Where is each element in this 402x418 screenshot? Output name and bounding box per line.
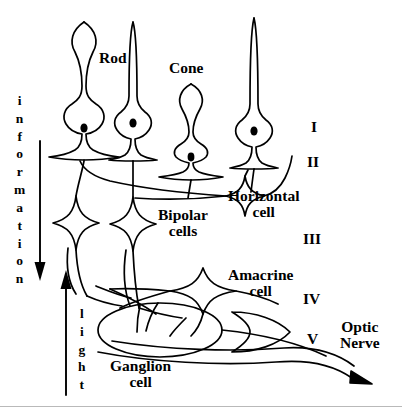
axis-letter: n [16, 110, 24, 128]
layer-label-ii: II [307, 154, 319, 170]
axis-letter: m [14, 181, 25, 199]
axis-letter: g [78, 341, 85, 359]
bipolar-cell-left [53, 196, 99, 296]
light-arrow [61, 270, 72, 395]
axis-letter: t [17, 217, 22, 235]
axis-letter: r [17, 163, 23, 181]
label-optic-nerve-line1: Optic [340, 319, 380, 335]
axis-letter: f [17, 128, 22, 146]
ganglion-dendrites [137, 303, 186, 336]
label-amacrine-cell-line1: Amacrine [228, 267, 293, 283]
axis-letter: o [16, 145, 23, 163]
information-arrow [35, 141, 46, 281]
layer-label-iv: IV [303, 291, 320, 307]
axis-letter: i [18, 235, 22, 253]
layer-label-i: I [311, 119, 317, 135]
axis-letter: h [78, 358, 86, 376]
photoreceptor-cone-labeled [159, 84, 223, 180]
photoreceptor-rod-right [230, 18, 278, 169]
axis-letter: i [18, 92, 22, 110]
label-cone: Cone [169, 60, 203, 76]
photoreceptor-cone-left [49, 22, 119, 160]
axis-letter: l [80, 305, 84, 323]
layer-label-v: V [307, 331, 318, 347]
axis-letter: a [16, 199, 23, 217]
axis-letter: n [16, 270, 24, 288]
bottom-divider [0, 406, 402, 407]
axis-letter: o [16, 252, 23, 270]
label-optic-nerve-line2: Nerve [340, 335, 380, 351]
label-bipolar-cells-line1: Bipolar [158, 207, 208, 223]
label-horizontal-cell-line2: cell [228, 204, 299, 220]
label-amacrine-cell: Amacrine cell [228, 267, 293, 300]
retina-diagram: Rod Cone Horizontal cell Bipolar cells A… [0, 0, 402, 418]
layer-label-iii: III [303, 231, 321, 247]
label-optic-nerve: Optic Nerve [340, 319, 380, 352]
label-rod: Rod [99, 50, 127, 66]
label-amacrine-cell-line2: cell [228, 283, 293, 299]
optic-nerve-arrowhead [350, 371, 372, 384]
axis-label-information: information [14, 92, 25, 288]
label-horizontal-cell: Horizontal cell [228, 188, 299, 221]
label-ganglion-cell: Ganglion cell [110, 358, 171, 391]
axis-letter: t [80, 376, 85, 394]
label-horizontal-cell-line1: Horizontal [228, 188, 299, 204]
photoreceptor-rod-labeled [109, 22, 157, 161]
label-ganglion-cell-line1: Ganglion [110, 358, 171, 374]
label-bipolar-cells: Bipolar cells [158, 207, 208, 240]
axis-label-light: light [78, 305, 86, 394]
label-ganglion-cell-line2: cell [110, 374, 171, 390]
label-bipolar-cells-line2: cells [158, 223, 208, 239]
axis-letter: i [80, 323, 84, 341]
